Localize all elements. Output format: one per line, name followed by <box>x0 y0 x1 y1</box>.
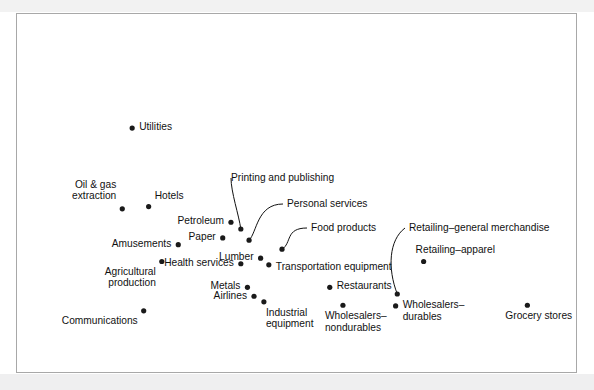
callout-leader-line <box>249 204 283 240</box>
point-label: Airlines <box>17 290 247 302</box>
data-point <box>421 259 426 264</box>
point-label: Restaurants <box>337 280 392 292</box>
data-point <box>176 242 181 247</box>
point-label: Utilities <box>139 121 172 133</box>
point-label: Personal services <box>287 198 367 210</box>
point-label: Petroleum <box>17 215 224 227</box>
data-point <box>251 294 256 299</box>
data-point <box>395 291 400 296</box>
point-label: Agricultural production <box>17 266 156 289</box>
point-label: Industrial equipment <box>266 307 314 330</box>
data-point <box>146 204 151 209</box>
point-label: Paper <box>17 231 216 243</box>
data-point <box>220 235 225 240</box>
callout-leader-line <box>391 228 405 294</box>
data-point <box>130 125 135 130</box>
point-label: Wholesalers– durables <box>403 299 465 322</box>
data-point <box>393 303 398 308</box>
data-point <box>245 285 250 290</box>
data-point <box>141 308 146 313</box>
bottom-artifact-band <box>0 374 594 390</box>
point-label: Oil & gas extraction <box>17 179 116 202</box>
data-point <box>120 206 125 211</box>
data-point <box>238 226 243 231</box>
point-label: Food products <box>311 222 376 234</box>
point-label: Retailing–apparel <box>416 244 495 256</box>
data-point <box>266 262 271 267</box>
data-point <box>525 303 530 308</box>
top-artifact-band <box>0 0 594 12</box>
chart-page: UtilitiesOil & gas extractionHotelsAmuse… <box>0 0 594 390</box>
data-point <box>279 247 284 252</box>
point-label: Hotels <box>155 190 184 202</box>
point-label: Grocery stores <box>505 310 572 322</box>
data-point <box>246 238 251 243</box>
data-point <box>228 220 233 225</box>
point-label: Printing and publishing <box>231 172 334 184</box>
data-point <box>258 256 263 261</box>
point-label: Wholesalers– nondurables <box>325 310 387 333</box>
callout-leader-line <box>282 228 307 249</box>
chart-frame: UtilitiesOil & gas extractionHotelsAmuse… <box>16 13 577 373</box>
data-point <box>261 299 266 304</box>
point-label: Transportation equipment <box>276 261 392 273</box>
data-point <box>340 303 345 308</box>
point-label: Retailing–general merchandise <box>409 222 549 234</box>
data-point <box>327 285 332 290</box>
point-label: Communications <box>17 315 138 327</box>
